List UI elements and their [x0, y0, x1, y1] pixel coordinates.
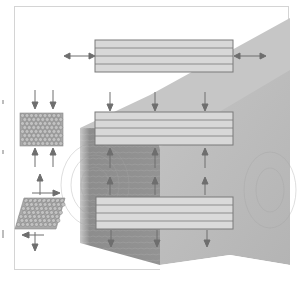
top-panel: [95, 40, 233, 72]
middle-panel: [95, 112, 233, 145]
wood-lamination-diagram: [0, 0, 297, 281]
diagram-canvas: [0, 0, 297, 281]
lattice-square-inset: [20, 90, 63, 167]
lattice-parallelogram-inset: [15, 174, 65, 251]
bottom-panel: [96, 197, 233, 229]
